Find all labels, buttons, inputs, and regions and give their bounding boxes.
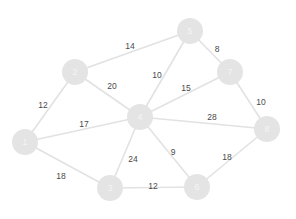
- edge-weight-4-8: 28: [207, 112, 217, 122]
- edge-weight-3-6: 12: [148, 181, 158, 191]
- graph-node-label-8: 8: [264, 124, 269, 134]
- graph-edge-1-3: [25, 142, 110, 188]
- graph-node-label-6: 6: [194, 182, 199, 192]
- graph-node-2[interactable]: 2: [62, 59, 88, 85]
- edge-weight-5-7: 8: [215, 44, 220, 54]
- edge-weight-2-5: 14: [125, 41, 135, 51]
- edge-weight-1-2: 12: [38, 100, 48, 110]
- graph-node-5[interactable]: 5: [177, 18, 203, 44]
- graph-node-label-4: 4: [137, 112, 142, 122]
- graph-edge-6-8: [197, 129, 267, 187]
- graph-edge-4-8: [140, 117, 267, 129]
- graph-node-3[interactable]: 3: [97, 175, 123, 201]
- graph-node-label-7: 7: [227, 67, 232, 77]
- graph-node-label-2: 2: [72, 67, 77, 77]
- edge-weight-1-4: 17: [79, 119, 89, 129]
- edge-weight-3-4: 24: [128, 154, 138, 164]
- nodes-layer: 12345678: [12, 18, 280, 201]
- edge-weight-2-4: 20: [107, 81, 117, 91]
- graph-node-label-1: 1: [22, 137, 27, 147]
- graph-node-label-3: 3: [107, 183, 112, 193]
- edge-weight-4-6: 9: [171, 147, 176, 157]
- graph-node-4[interactable]: 4: [127, 104, 153, 130]
- edge-weight-7-8: 10: [256, 97, 266, 107]
- graph-diagram: 12345678 14810151220171028249181218: [0, 0, 296, 219]
- graph-edge-4-6: [140, 117, 197, 187]
- graph-node-label-5: 5: [187, 26, 192, 36]
- graph-node-7[interactable]: 7: [217, 59, 243, 85]
- edge-weight-6-8: 18: [222, 152, 232, 162]
- edge-weight-1-3: 18: [56, 171, 66, 181]
- graph-edge-2-5: [75, 31, 190, 72]
- edge-weight-4-5: 10: [152, 70, 162, 80]
- graph-node-6[interactable]: 6: [184, 174, 210, 200]
- graph-node-8[interactable]: 8: [254, 116, 280, 142]
- graph-node-1[interactable]: 1: [12, 129, 38, 155]
- graph-canvas-svg: 12345678 14810151220171028249181218: [0, 0, 296, 219]
- edge-weight-4-7: 15: [181, 83, 191, 93]
